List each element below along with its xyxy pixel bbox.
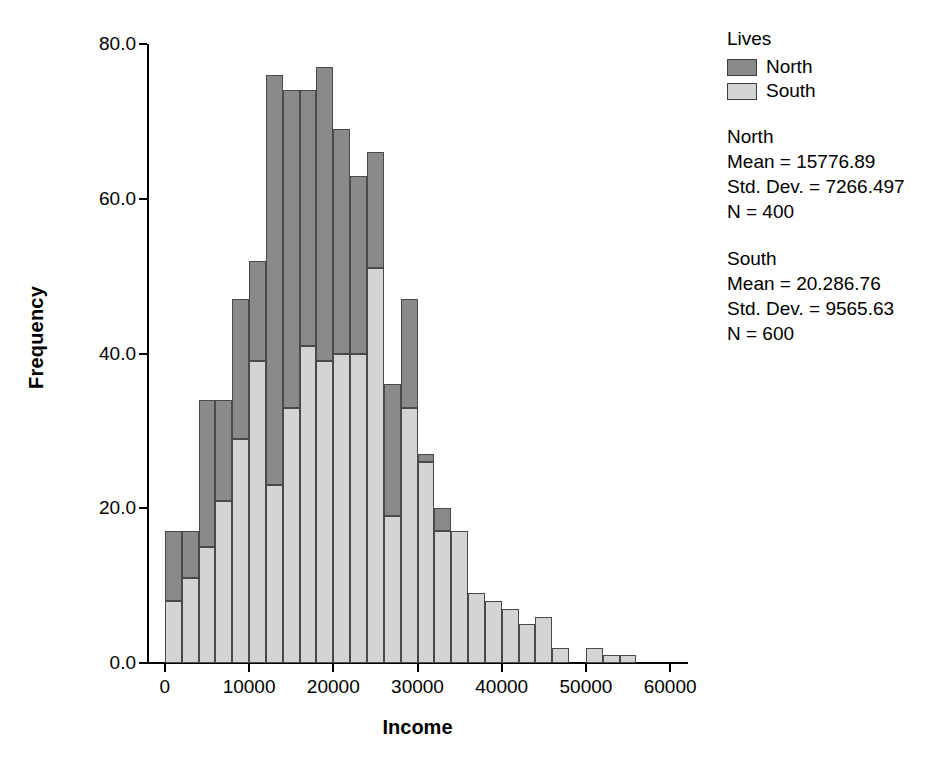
stats-block-north: North Mean = 15776.89 Std. Dev. = 7266.4…: [727, 124, 947, 224]
bar-segment-north: [266, 75, 283, 485]
bar-segment-north: [434, 508, 451, 531]
y-tick-mark: [139, 198, 147, 200]
bar-segment-south: [485, 601, 502, 663]
x-tick-mark: [501, 664, 503, 672]
x-tick-mark: [332, 664, 334, 672]
bar-segment-south: [418, 462, 435, 663]
bar-segment-north: [367, 152, 384, 268]
x-tick-mark: [669, 664, 671, 672]
bar-segment-south: [333, 354, 350, 664]
x-tick-mark: [248, 664, 250, 672]
stats-group-name-north: North: [727, 124, 947, 149]
y-tick-label: 20.0: [56, 497, 136, 519]
bar-segment-north: [333, 129, 350, 353]
histogram-bar: [232, 299, 249, 663]
histogram-bar: [586, 648, 603, 663]
histogram-bar: [502, 609, 519, 663]
histogram-bar: [182, 531, 199, 663]
legend-title: Lives: [727, 28, 947, 50]
bar-segment-north: [300, 90, 317, 345]
bar-segment-south: [451, 531, 468, 663]
bar-segment-north: [316, 67, 333, 361]
bar-segment-south: [232, 439, 249, 663]
plot-inner: [148, 44, 687, 663]
x-tick-label: 10000: [223, 676, 276, 698]
legend-label-south: South: [766, 80, 816, 102]
bar-segment-south: [384, 516, 401, 663]
bar-segment-south: [502, 609, 519, 663]
bar-segment-north: [283, 90, 300, 407]
histogram-bar: [215, 400, 232, 663]
bar-segment-north: [199, 400, 216, 547]
histogram-bar: [266, 75, 283, 663]
bar-segment-north: [384, 384, 401, 516]
bar-segment-south: [367, 268, 384, 663]
x-tick-mark: [417, 664, 419, 672]
histogram-bar: [418, 454, 435, 663]
bar-segment-north: [232, 299, 249, 438]
histogram-bar: [350, 176, 367, 663]
histogram-bar: [384, 384, 401, 663]
histogram-bar: [401, 299, 418, 663]
y-tick-label: 40.0: [56, 343, 136, 365]
bar-segment-south: [434, 531, 451, 663]
bar-segment-north: [215, 400, 232, 501]
stats-n-south: N = 600: [727, 321, 947, 346]
bar-segment-north: [249, 261, 266, 362]
bar-segment-south: [165, 601, 182, 663]
histogram-bar: [434, 508, 451, 663]
histogram-bar: [199, 400, 216, 663]
y-tick-mark: [139, 662, 147, 664]
histogram-bar: [603, 655, 620, 663]
histogram-bar: [249, 261, 266, 663]
x-tick-label: 0: [160, 676, 171, 698]
bar-segment-south: [620, 655, 637, 663]
bar-segment-north: [165, 531, 182, 601]
stats-stddev-south: Std. Dev. = 9565.63: [727, 296, 947, 321]
x-tick-label: 30000: [391, 676, 444, 698]
x-tick-label: 40000: [475, 676, 528, 698]
chart-plot-region: 0.020.040.060.080.0 01000020000300004000…: [0, 0, 710, 768]
stats-group-name-south: South: [727, 246, 947, 271]
legend-swatch-north: [727, 59, 757, 76]
bar-segment-south: [401, 408, 418, 663]
histogram-bar: [535, 617, 552, 663]
bar-segment-south: [266, 485, 283, 663]
histogram-bar: [316, 67, 333, 663]
histogram-bar: [485, 601, 502, 663]
bar-segment-north: [418, 454, 435, 462]
bar-segment-south: [586, 648, 603, 663]
y-axis-title: Frequency: [25, 38, 48, 638]
bar-segment-north: [182, 531, 199, 577]
bar-segment-south: [552, 648, 569, 663]
legend-and-stats-panel: Lives North South North Mean = 15776.89 …: [727, 28, 947, 346]
legend-label-north: North: [766, 56, 812, 78]
bar-segment-south: [215, 501, 232, 663]
bar-segment-south: [300, 346, 317, 663]
histogram-bar: [283, 90, 300, 663]
histogram-bar: [519, 624, 536, 663]
histogram-bar: [620, 655, 637, 663]
y-tick-mark: [139, 507, 147, 509]
bar-segment-south: [350, 354, 367, 664]
histogram-bar: [165, 531, 182, 663]
stats-stddev-north: Std. Dev. = 7266.497: [727, 174, 947, 199]
histogram-bar: [367, 152, 384, 663]
bar-segment-south: [603, 655, 620, 663]
legend-item-north: North: [727, 56, 947, 78]
bar-segment-south: [468, 593, 485, 663]
bar-segment-south: [283, 408, 300, 663]
x-tick-label: 20000: [307, 676, 360, 698]
histogram-bar: [300, 90, 317, 663]
y-tick-mark: [139, 43, 147, 45]
stats-mean-south: Mean = 20.286.76: [727, 271, 947, 296]
histogram-bar: [333, 129, 350, 663]
y-tick-label: 80.0: [56, 33, 136, 55]
stats-n-north: N = 400: [727, 199, 947, 224]
y-tick-label: 60.0: [56, 188, 136, 210]
bar-segment-north: [401, 299, 418, 407]
legend-item-south: South: [727, 80, 947, 102]
bar-segment-south: [519, 624, 536, 663]
histogram-bar: [552, 648, 569, 663]
y-tick-label: 0.0: [56, 652, 136, 674]
